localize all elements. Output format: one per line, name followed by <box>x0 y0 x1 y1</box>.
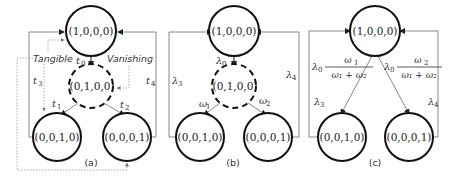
label-lambda3: λ3 <box>313 96 324 109</box>
svg-text:4: 4 <box>434 101 439 109</box>
node-1000: (1,0,0,0) <box>209 6 259 56</box>
node-0100: (0,1,0,0) <box>69 64 114 108</box>
vanishing-label: Vanishing <box>107 53 153 64</box>
svg-text:(0,0,1,0): (0,0,1,0) <box>178 131 223 143</box>
edge-to-0001 <box>378 56 409 114</box>
label-lambda4: λ4 <box>427 96 439 109</box>
svg-text:(0,0,0,1): (0,0,0,1) <box>246 131 291 143</box>
svg-text:(0,0,0,1): (0,0,0,1) <box>387 131 432 143</box>
svg-text:ω: ω <box>414 55 422 65</box>
svg-text:0: 0 <box>318 66 322 74</box>
svg-text:0: 0 <box>390 66 394 74</box>
node-0001: (0,0,0,1) <box>103 113 151 161</box>
svg-text:1: 1 <box>206 103 210 111</box>
svg-text:1: 1 <box>354 59 358 67</box>
svg-text:2: 2 <box>424 59 428 67</box>
label-t3: t3 <box>33 75 42 88</box>
node-0001: (0,0,0,1) <box>385 113 433 161</box>
label-t0: t0 <box>76 55 85 68</box>
node-0010: (0,0,1,0) <box>318 113 366 161</box>
label-rate-to-0010: λ 0 ω 1 ω₁ + ω₂ <box>311 55 373 80</box>
svg-text:(0,0,0,1): (0,0,0,1) <box>105 131 150 143</box>
label-lambda0: λ0 <box>215 55 226 68</box>
svg-text:(1,0,0,0): (1,0,0,0) <box>353 25 398 37</box>
node-0100: (0,1,0,0) <box>212 64 257 108</box>
label-omega2: ω2 <box>259 95 270 108</box>
label-t4: t4 <box>146 75 156 88</box>
svg-text:ω₁ + ω₂: ω₁ + ω₂ <box>401 70 437 80</box>
label-t2: t2 <box>120 99 129 112</box>
svg-text:(0,0,1,0): (0,0,1,0) <box>320 131 365 143</box>
tangible-pointer-top <box>48 40 64 52</box>
svg-text:2: 2 <box>125 104 129 112</box>
svg-text:(0,1,0,0): (0,1,0,0) <box>70 80 115 92</box>
svg-text:2: 2 <box>266 100 270 108</box>
state-transition-diagram: (1,0,0,0) (0,1,0,0) (0,0,1,0) (0,0,0,1) … <box>0 0 456 180</box>
caption-c: (c) <box>369 157 382 168</box>
caption-b: (b) <box>226 157 239 168</box>
label-lambda3: λ3 <box>171 75 182 88</box>
panel-a: (1,0,0,0) (0,1,0,0) (0,0,1,0) (0,0,0,1) … <box>17 6 156 170</box>
node-0001: (0,0,0,1) <box>244 113 292 161</box>
svg-text:(1,0,0,0): (1,0,0,0) <box>212 25 257 37</box>
svg-text:3: 3 <box>38 80 42 88</box>
node-1000: (1,0,0,0) <box>350 6 400 56</box>
tangible-label: Tangible <box>33 53 73 64</box>
svg-text:ω: ω <box>344 55 352 65</box>
svg-text:0: 0 <box>222 60 226 68</box>
svg-text:4: 4 <box>292 74 297 82</box>
label-omega1: ω1 <box>199 98 210 111</box>
svg-text:0: 0 <box>81 60 85 68</box>
node-0010: (0,0,1,0) <box>176 113 224 161</box>
label-t1: t1 <box>52 98 61 111</box>
node-0010: (0,0,1,0) <box>33 113 81 161</box>
svg-text:(1,0,0,0): (1,0,0,0) <box>69 25 114 37</box>
svg-text:ω₁ + ω₂: ω₁ + ω₂ <box>331 70 367 80</box>
node-1000: (1,0,0,0) <box>66 6 116 56</box>
vanishing-pointer <box>117 66 129 88</box>
svg-text:(0,0,1,0): (0,0,1,0) <box>35 131 80 143</box>
label-rate-to-0001: λ 0 ω 2 ω₁ + ω₂ <box>383 55 442 80</box>
panel-b: (1,0,0,0) (0,1,0,0) (0,0,1,0) (0,0,0,1) … <box>169 6 299 168</box>
svg-text:(0,1,0,0): (0,1,0,0) <box>213 80 258 92</box>
svg-text:1: 1 <box>57 103 61 111</box>
panel-c: (1,0,0,0) (0,0,1,0) (0,0,0,1) λ 0 ω 1 ω₁… <box>309 6 442 168</box>
svg-text:3: 3 <box>178 80 182 88</box>
svg-text:3: 3 <box>320 101 324 109</box>
caption-a: (a) <box>84 157 97 168</box>
svg-text:4: 4 <box>151 80 156 88</box>
label-lambda4: λ4 <box>285 69 297 82</box>
